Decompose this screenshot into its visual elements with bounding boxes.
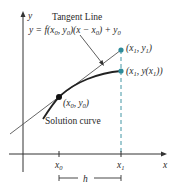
tangent-pointer [80, 35, 102, 63]
tangent-line-heading: Tangent Line [52, 12, 102, 22]
x-axis-label: x [162, 160, 168, 170]
y-axis-label: y [27, 11, 33, 21]
point-x1-y1-label: (x1, y1) [126, 43, 152, 54]
y-axis-arrow-icon [21, 11, 26, 17]
x0-tick-label: x0 [54, 160, 63, 171]
euler-diagram: y x x0 x1 h Tangent Line y = f(x0, y0)(x… [0, 0, 178, 186]
point-x1-y1 [118, 47, 123, 52]
point-x0-y0 [56, 94, 62, 100]
tangent-equation: y = f(x0, y0)(x − x0) + y0 [28, 25, 122, 36]
point-x1-yx1-label: (x1, y(x1)) [126, 66, 163, 77]
x-axis-arrow-icon [161, 152, 167, 157]
solution-curve [43, 71, 121, 119]
point-x0-y0-label: (x0, y0) [63, 98, 89, 109]
solution-curve-label: Solution curve [45, 116, 101, 126]
point-x1-yx1 [118, 68, 123, 73]
x1-tick-label: x1 [116, 160, 124, 171]
step-size-label: h [83, 174, 88, 184]
